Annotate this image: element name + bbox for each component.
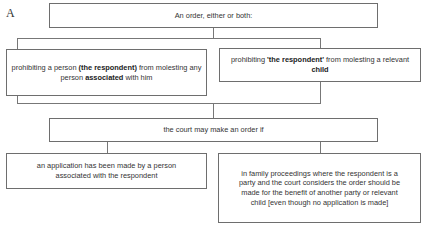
text-bold-the-respondent: (the respondent) bbox=[79, 63, 137, 72]
connector-middle bbox=[213, 103, 214, 118]
bracket-upper-right bbox=[320, 38, 321, 48]
node-middle: the court may make an order if bbox=[49, 118, 378, 142]
node-right-order-text: prohibiting 'the respondent' from molest… bbox=[224, 55, 416, 74]
text-bold-child: child bbox=[311, 65, 328, 74]
node-middle-text: the court may make an order if bbox=[163, 125, 263, 135]
node-right-order: prohibiting 'the respondent' from molest… bbox=[219, 48, 421, 82]
connector-bottom-left bbox=[107, 142, 108, 153]
text-part: prohibiting bbox=[231, 55, 267, 64]
text-bold-associated: associated bbox=[85, 73, 123, 82]
node-left-order: prohibiting a person (the respondent) fr… bbox=[6, 49, 207, 96]
text-part: prohibiting a person bbox=[12, 63, 79, 72]
node-left-order-text: prohibiting a person (the respondent) fr… bbox=[11, 63, 202, 82]
bracket-upper-horizontal bbox=[17, 38, 321, 39]
figure-label: A bbox=[6, 6, 15, 21]
node-top: An order, either or both: bbox=[49, 3, 378, 28]
node-left-condition: an application has been made by a person… bbox=[6, 153, 207, 189]
node-top-text: An order, either or both: bbox=[175, 11, 253, 21]
node-left-condition-text: an application has been made by a person… bbox=[19, 161, 194, 180]
bracket-upper-left bbox=[17, 38, 18, 49]
text-part: with him bbox=[123, 73, 152, 82]
text-part: from molesting a relevant bbox=[324, 55, 409, 64]
text-bold-the-respondent: 'the respondent' bbox=[267, 55, 324, 64]
bracket-lower-right bbox=[320, 82, 321, 104]
node-right-condition: in family proceedings where the responde… bbox=[218, 153, 421, 223]
node-right-condition-text: in family proceedings where the responde… bbox=[233, 169, 406, 207]
connector-bottom-right bbox=[320, 142, 321, 153]
bracket-lower-horizontal bbox=[17, 103, 321, 104]
